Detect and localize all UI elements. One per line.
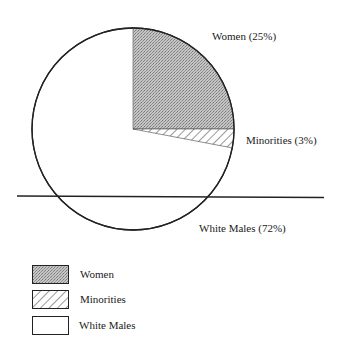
label-white-males: White Males (72%) bbox=[199, 222, 286, 234]
slice-women bbox=[133, 28, 234, 129]
label-minorities: Minorities (3%) bbox=[246, 134, 317, 146]
label-women: Women (25%) bbox=[212, 30, 276, 42]
legend-label-women: Women bbox=[80, 268, 114, 280]
legend-label-minorities: Minorities bbox=[80, 293, 126, 305]
legend-label-white-males: White Males bbox=[79, 319, 136, 331]
pie-chart bbox=[0, 0, 339, 349]
